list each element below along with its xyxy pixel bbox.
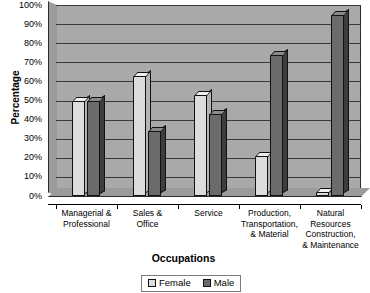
y-axis-tick-label: 0% [8, 192, 42, 201]
chart-legend: FemaleMale [141, 275, 241, 292]
legend-swatch-female [148, 279, 156, 287]
y-axis-tick-label: 20% [8, 153, 42, 162]
bar-face [331, 15, 344, 196]
legend-label: Female [159, 278, 191, 288]
bars-layer [48, 5, 361, 196]
x-axis-line [48, 204, 361, 205]
bar-female[interactable] [316, 192, 329, 196]
legend-label: Male [214, 278, 235, 288]
legend-swatch-male [203, 279, 211, 287]
y-axis-tick-label: 90% [8, 20, 42, 29]
gridline [56, 196, 361, 197]
y-axis-tick-label: 70% [8, 58, 42, 67]
x-axis-category-label: Sales & Office [114, 208, 181, 229]
y-axis-tick-label: 30% [8, 134, 42, 143]
legend-item-female[interactable]: Female [148, 278, 191, 288]
y-axis-tick-labels: 100%90%80%70%60%50%40%30%20%10%0% [8, 0, 42, 200]
bar-male[interactable] [331, 15, 344, 196]
y-axis-tick-label: 40% [8, 115, 42, 124]
y-axis-tick-label: 80% [8, 39, 42, 48]
y-axis-tick-label: 50% [8, 96, 42, 105]
x-axis-category-label: Natural Resources Construction, & Mainte… [297, 208, 364, 250]
y-axis-tick-label: 60% [8, 77, 42, 86]
x-axis-title: Occupations [0, 252, 367, 264]
legend-item-male[interactable]: Male [203, 278, 235, 288]
x-axis-category-label: Service [175, 208, 242, 219]
x-axis-category-label: Production, Transportation, & Material [236, 208, 303, 240]
x-axis-category-label: Managerial & Professional [53, 208, 120, 229]
y-axis-tick-label: 10% [8, 172, 42, 181]
y-axis-tick-label: 100% [8, 1, 42, 10]
bar-group [48, 5, 361, 196]
bar-side [344, 9, 349, 193]
